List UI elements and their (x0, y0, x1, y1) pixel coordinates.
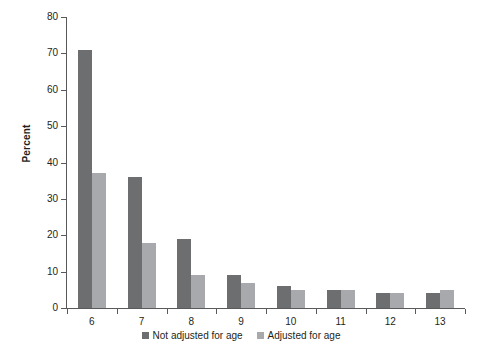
bar (142, 243, 156, 308)
x-axis-tick-mark (216, 309, 217, 314)
bar (78, 50, 92, 308)
bar (177, 239, 191, 308)
y-axis-tick-label: 20 (30, 230, 58, 240)
x-axis-tick-mark (266, 309, 267, 314)
x-axis-tick-mark (67, 309, 68, 314)
x-axis-tick-label: 10 (271, 316, 311, 327)
bar-group (426, 17, 454, 308)
bar-group (177, 17, 205, 308)
legend-item: Not adjusted for age (142, 330, 243, 341)
bar (341, 290, 355, 308)
bar (227, 275, 241, 308)
bar (327, 290, 341, 308)
plot-area (67, 17, 465, 308)
bar (128, 177, 142, 308)
bar (92, 173, 106, 308)
bar (426, 293, 440, 308)
legend-swatch-icon (257, 332, 264, 339)
bar (376, 293, 390, 308)
y-axis-tick-label: 50 (30, 121, 58, 131)
x-axis-tick-label: 6 (72, 316, 112, 327)
y-axis-tick-label: 80 (30, 12, 58, 22)
bar (277, 286, 291, 308)
bar-chart: Percent 01020304050607080 678910111213 N… (0, 0, 482, 356)
x-axis-tick-label: 7 (122, 316, 162, 327)
y-axis-title: Percent (21, 104, 32, 184)
legend-swatch-icon (142, 332, 149, 339)
bar (440, 290, 454, 308)
y-axis-tick-label: 70 (30, 48, 58, 58)
y-axis-tick-label: 10 (30, 267, 58, 277)
x-axis-tick-mark (167, 309, 168, 314)
x-axis-tick-mark (465, 309, 466, 314)
x-axis-tick-label: 13 (420, 316, 460, 327)
bar (291, 290, 305, 308)
bar-group (78, 17, 106, 308)
bar-group (277, 17, 305, 308)
bar (241, 283, 255, 308)
legend-label: Adjusted for age (268, 330, 341, 341)
bar-group (128, 17, 156, 308)
bar (390, 293, 404, 308)
y-axis-tick-label: 0 (30, 303, 58, 313)
legend-label: Not adjusted for age (153, 330, 243, 341)
y-axis-tick-label: 30 (30, 194, 58, 204)
x-axis-tick-mark (366, 309, 367, 314)
bar (191, 275, 205, 308)
bar-group (376, 17, 404, 308)
bar-group (227, 17, 255, 308)
x-axis-tick-label: 11 (321, 316, 361, 327)
y-axis-tick-label: 40 (30, 158, 58, 168)
x-axis-tick-label: 9 (221, 316, 261, 327)
legend-item: Adjusted for age (257, 330, 341, 341)
x-axis-tick-label: 12 (370, 316, 410, 327)
x-axis-tick-mark (316, 309, 317, 314)
x-axis-tick-mark (415, 309, 416, 314)
y-axis-tick-label: 60 (30, 85, 58, 95)
x-axis-tick-mark (117, 309, 118, 314)
bar-group (327, 17, 355, 308)
chart-legend: Not adjusted for ageAdjusted for age (0, 330, 482, 341)
x-axis-tick-label: 8 (171, 316, 211, 327)
